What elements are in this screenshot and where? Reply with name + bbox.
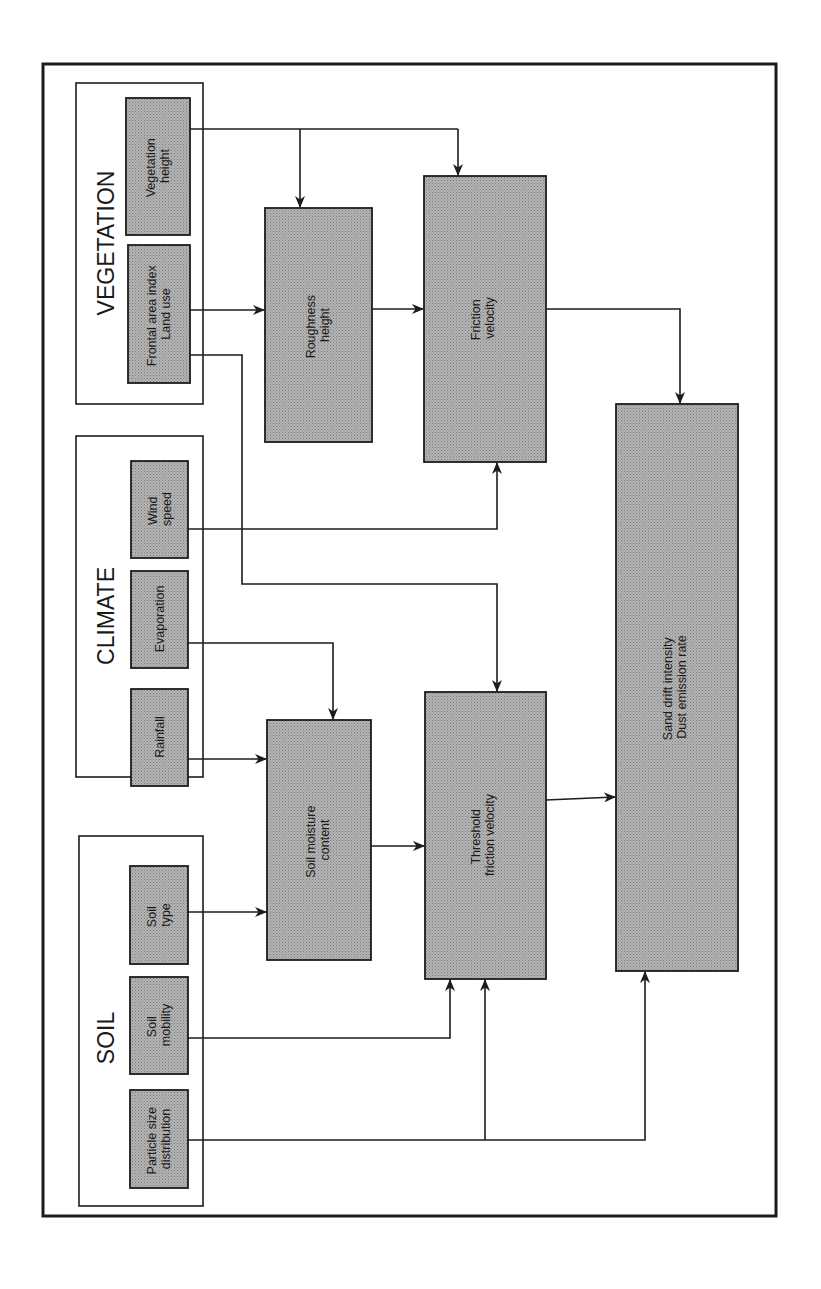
svg-text:Soil type: Soil type xyxy=(145,903,173,927)
node-soil-moisture-line2: content xyxy=(318,819,332,861)
node-soil-type-line2: type xyxy=(159,903,173,927)
node-vegetation-height-line2: height xyxy=(158,148,172,183)
node-output-line1: Sand drift intensity xyxy=(661,637,675,741)
node-frontal-area-land-use: Frontal area index Land use xyxy=(128,245,190,383)
edge-friction-to-output xyxy=(546,309,680,403)
node-output-line2: Dust emission rate xyxy=(675,635,689,739)
node-soil-type: Soil type xyxy=(130,866,188,964)
svg-text:Sand drift intensity Dus: Sand drift intensity Dust emission rate xyxy=(661,634,689,740)
node-roughness-height-line2: height xyxy=(318,307,332,342)
node-frontal-area-line1: Frontal area index xyxy=(145,265,159,367)
edge-particlesize-bus xyxy=(188,972,645,1140)
svg-text:Threshold friction veloc: Threshold friction velocity xyxy=(469,793,497,876)
node-wind-speed-line2: speed xyxy=(160,492,174,526)
node-vegetation-height: Vegetation height xyxy=(126,98,190,235)
node-roughness-height-line1: Roughness xyxy=(304,295,318,358)
node-friction-velocity-line1: Friction xyxy=(469,299,483,340)
node-rainfall-label: Rainfall xyxy=(153,716,167,758)
node-soil-type-line1: Soil xyxy=(145,906,159,927)
node-frontal-area-line2: Land use xyxy=(159,288,173,339)
node-sand-drift-dust-emission: Sand drift intensity Dust emission rate xyxy=(616,404,738,971)
group-soil-title: SOIL xyxy=(93,1012,119,1065)
node-soil-mobility-line2: mobility xyxy=(159,1003,173,1046)
node-roughness-height: Roughness height xyxy=(265,208,372,442)
svg-text:Particle size distributi: Particle size distribution xyxy=(145,1104,173,1175)
edge-evaporation-to-moisture xyxy=(188,643,333,719)
svg-text:Friction velocity: Friction velocity xyxy=(469,296,497,340)
edge-wind-to-friction xyxy=(188,463,497,529)
node-particle-size-distribution: Particle size distribution xyxy=(130,1090,188,1188)
node-threshold-line1: Threshold xyxy=(469,809,483,865)
node-soil-mobility-line1: Soil xyxy=(145,1016,159,1037)
node-particle-size-line2: distribution xyxy=(159,1109,173,1169)
node-evaporation-label: Evaporation xyxy=(153,586,167,653)
node-particle-size-line1: Particle size xyxy=(145,1107,159,1174)
node-friction-velocity-line2: velocity xyxy=(483,296,497,338)
node-threshold-line2: friction velocity xyxy=(483,793,497,876)
node-soil-moisture-content: Soil moisture content xyxy=(267,720,371,960)
group-vegetation-title: VEGETATION xyxy=(93,171,119,316)
node-threshold-friction-velocity: Threshold friction velocity xyxy=(425,692,546,979)
node-vegetation-height-line1: Vegetation xyxy=(144,138,158,197)
node-wind-speed: Wind speed xyxy=(131,461,188,558)
edge-mobility-to-threshold xyxy=(188,980,450,1038)
node-friction-velocity: Friction velocity xyxy=(424,176,546,462)
node-soil-mobility: Soil mobility xyxy=(130,977,188,1074)
svg-text:Wind speed: Wind speed xyxy=(146,492,174,526)
group-climate-title: CLIMATE xyxy=(93,567,119,665)
node-rainfall: Rainfall xyxy=(131,689,188,786)
edge-threshold-to-output xyxy=(546,797,615,800)
node-soil-moisture-line1: Soil moisture xyxy=(304,806,318,878)
node-wind-speed-line1: Wind xyxy=(146,496,160,525)
wind-erosion-flow-diagram: VEGETATION CLIMATE SOIL xyxy=(0,0,821,1289)
node-evaporation: Evaporation xyxy=(131,571,188,668)
